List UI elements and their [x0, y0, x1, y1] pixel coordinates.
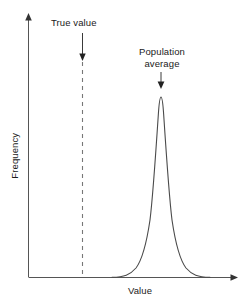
statistics-figure: True value Populationaverage Value Frequ…	[0, 0, 251, 307]
true-value-arrowhead-icon	[79, 54, 85, 62]
population-average-arrowhead-icon	[158, 82, 165, 90]
y-axis-arrowhead-icon	[25, 13, 32, 21]
true-value-label: True value	[51, 17, 97, 29]
y-axis	[25, 13, 32, 277]
population-average-label: Populationaverage	[121, 46, 203, 69]
true-value-arrow	[79, 33, 85, 61]
population-average-arrow	[158, 72, 165, 89]
population-average-label-line1: Population	[139, 46, 185, 57]
y-axis-label: Frequency	[9, 121, 21, 191]
distribution-curve	[112, 97, 210, 277]
x-axis-label: Value	[110, 285, 170, 297]
x-axis-arrowhead-icon	[231, 274, 239, 281]
population-average-label-line2: average	[144, 58, 179, 69]
